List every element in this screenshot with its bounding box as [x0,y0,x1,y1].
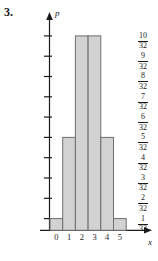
y-tick-label-1: 1 32 [128,215,158,234]
y-tick-label-7: 7 32 [128,93,158,112]
bar-0 [50,219,63,231]
y-tick-numerator-4: 4 [138,154,148,163]
y-tick-denominator-5: 32 [138,144,148,153]
y-tick-denominator-7: 32 [138,103,148,112]
y-tick-denominator-4: 32 [138,164,148,173]
y-tick-numerator-2: 2 [138,194,148,203]
bar-chart: 1 32 2 32 3 32 4 32 [0,0,158,261]
y-tick-numerator-10: 10 [138,32,148,41]
y-axis-ticks [44,36,52,219]
x-axis-title: x [148,238,152,247]
bar-4 [101,137,114,230]
y-tick-numerator-6: 6 [138,113,148,122]
y-tick-denominator-10: 32 [138,42,148,51]
y-tick-numerator-3: 3 [138,174,148,183]
bar-3 [88,36,101,230]
y-tick-label-5: 5 32 [128,133,158,152]
y-tick-numerator-9: 9 [138,52,148,61]
y-tick-numerator-5: 5 [138,133,148,142]
bar-5 [114,219,127,231]
y-tick-denominator-8: 32 [138,83,148,92]
y-tick-label-2: 2 32 [128,194,158,213]
y-tick-numerator-8: 8 [138,72,148,81]
y-tick-denominator-3: 32 [138,184,148,193]
y-axis-title: p [55,9,60,18]
y-tick-label-10: 10 32 [128,32,158,51]
x-tick-label-5: 5 [113,233,127,242]
y-tick-numerator-1: 1 [138,215,148,224]
y-tick-denominator-2: 32 [138,205,148,214]
y-tick-label-3: 3 32 [128,174,158,193]
y-tick-label-8: 8 32 [128,72,158,91]
y-tick-label-6: 6 32 [128,113,158,132]
bars [50,36,126,230]
bar-2 [75,36,88,230]
bar-1 [63,137,76,230]
y-tick-denominator-9: 32 [138,63,148,72]
y-axis-arrowhead [46,12,53,20]
y-tick-denominator-6: 32 [138,124,148,133]
y-tick-label-9: 9 32 [128,52,158,71]
y-tick-numerator-7: 7 [138,93,148,102]
y-tick-denominator-1: 32 [138,225,148,234]
figure-container: 3. [0,0,158,261]
y-tick-label-4: 4 32 [128,154,158,173]
